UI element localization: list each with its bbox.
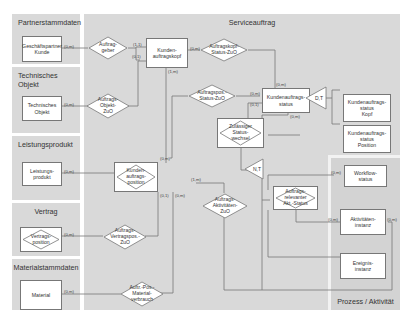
entity-workflow-status[interactable]: Workflow- status <box>344 165 387 187</box>
cardinality-label: (1,m) <box>191 177 201 182</box>
entity-technical-object[interactable]: Technisches Objekt <box>22 96 62 121</box>
entity-event-instance[interactable]: Ereignis- instanz <box>340 253 386 279</box>
relationship-label: Auftragspos.- Status-ZuO <box>197 90 227 102</box>
entity-order-status-header[interactable]: Kundenauftrags- status Kopf <box>343 94 391 122</box>
entity-business-partner[interactable]: Geschäftspartner Kunde <box>22 36 62 62</box>
relationship-label: Vertrags- position <box>31 234 51 246</box>
relationship-order-activities[interactable]: Auftrags- Aktivitäten- ZuO <box>202 193 248 219</box>
entity-activity-instance[interactable]: Aktivitäten- instanz <box>340 209 386 235</box>
entity-order-header[interactable]: Kunden- auftragskopf <box>146 38 188 68</box>
relationship-label: Zulässiger Status- wechsel <box>229 124 252 141</box>
cardinality-label: (0,1) <box>250 102 259 107</box>
cardinality-label: (0,m) <box>64 102 74 107</box>
entity-service-product[interactable]: Leistungs- produkt <box>22 162 62 186</box>
relationship-contract-position[interactable]: Vertrags- position <box>22 229 60 250</box>
cardinality-label: (0,m) <box>250 91 260 96</box>
relationship-order-contract[interactable]: Auftrags- Vertragspos.- ZuO <box>103 224 147 250</box>
generalization-label: D,T <box>315 95 323 101</box>
cardinality-label: (0,m) <box>331 170 341 175</box>
relationship-position-status[interactable]: Auftragspos.- Status-ZuO <box>188 84 236 108</box>
generalization-nt[interactable]: N,T <box>244 158 264 180</box>
cardinality-label: (0,m) <box>64 232 74 237</box>
cardinality-label: (0,m) <box>290 114 300 119</box>
relationship-order-giver[interactable]: Auftrag- geber <box>88 36 128 60</box>
entity-order-status[interactable]: Kundenauftrags- status <box>262 88 310 113</box>
cardinality-label: (0,m) <box>64 169 74 174</box>
relationship-order-position[interactable]: Kunden- auftrags- position <box>116 164 156 190</box>
entity-material[interactable]: Material <box>20 280 62 310</box>
relationship-allowed-status-change[interactable]: Zulässiger Status- wechsel <box>219 120 262 146</box>
cardinality-label: (0,1) <box>132 54 141 59</box>
relationship-label: Auftrags- Vertragspos.- ZuO <box>110 228 140 245</box>
cardinality-label: (0,m) <box>64 289 74 294</box>
cardinality-label: (0,m) <box>64 44 74 49</box>
relationship-label: Auftrags- relevanter Akt.-Status <box>283 189 307 206</box>
relationship-material-consumption[interactable]: Auftr.-Pos.- Material- verbrauch <box>120 281 164 307</box>
relationship-header-status[interactable]: Auftragskopf- Status-ZuO <box>200 38 248 62</box>
cardinality-label: (0,m) <box>190 46 200 51</box>
cardinality-label: (0,m) <box>387 217 397 222</box>
relationship-label: Auftragskopf- Status-ZuO <box>209 44 239 56</box>
cardinality-label: (0,m) <box>276 82 286 87</box>
relationship-label: Kunden- auftrags- position <box>126 168 146 185</box>
cardinality-label: (1,m) <box>168 69 178 74</box>
cardinality-label: (0,m) <box>328 217 338 222</box>
relationship-order-object[interactable]: Auftrags- Objekt- ZuO <box>86 93 130 119</box>
relationship-label: Auftrags- Aktivitäten- ZuO <box>213 197 238 214</box>
relationship-label: Auftr.-Pos.- Material- verbrauch <box>129 285 154 302</box>
relationship-label: Auftrag- geber <box>99 42 117 54</box>
cardinality-label: (1,1) <box>133 42 142 47</box>
relationship-label: Auftrags- Objekt- ZuO <box>98 97 118 114</box>
generalization-label: N,T <box>253 166 261 172</box>
cardinality-label: (0,1) <box>160 193 169 198</box>
generalization-dt[interactable]: D,T <box>305 86 327 110</box>
cardinality-label: (0,m) <box>175 193 185 198</box>
cardinality-label: (0,m) <box>160 156 170 161</box>
relationship-relevant-status[interactable]: Auftrags- relevanter Akt.-Status <box>275 187 316 209</box>
entity-order-status-position[interactable]: Kundenauftrags- status Position <box>343 125 391 153</box>
